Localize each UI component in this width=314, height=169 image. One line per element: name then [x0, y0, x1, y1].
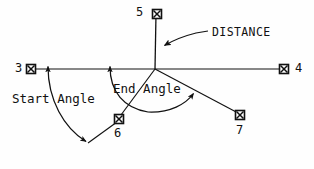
node-label-3: 3 — [15, 62, 22, 74]
start-angle-label: Start Angle — [12, 93, 95, 106]
square-x-node-marker-7 — [236, 111, 245, 120]
end-angle-label: End Angle — [113, 83, 181, 96]
distance-label: DISTANCE — [212, 27, 271, 39]
angle-distance-diagram: 3 4 5 6 7 Start Angle End Angle DISTANCE — [0, 0, 314, 169]
square-x-node-marker-4 — [280, 65, 289, 74]
square-x-node-marker-5 — [153, 10, 162, 19]
square-x-node-marker-6 — [115, 115, 124, 124]
distance-vertical-line — [155, 14, 156, 69]
square-x-node-marker-3 — [27, 65, 36, 74]
distance-leader-line — [165, 31, 209, 46]
node-label-5: 5 — [136, 6, 143, 18]
node-label-6: 6 — [114, 127, 121, 139]
node-label-4: 4 — [295, 62, 302, 74]
ray-node-6-extension — [88, 122, 117, 143]
node-label-7: 7 — [236, 124, 243, 136]
